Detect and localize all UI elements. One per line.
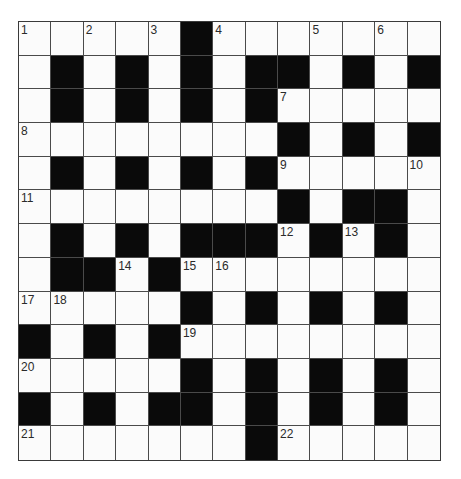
grid-cell[interactable] (408, 224, 440, 258)
grid-cell[interactable] (213, 393, 245, 427)
grid-cell[interactable] (213, 190, 245, 224)
grid-cell[interactable] (343, 393, 375, 427)
grid-cell[interactable] (149, 123, 181, 157)
grid-cell[interactable]: 11 (19, 190, 51, 224)
grid-cell[interactable] (84, 123, 116, 157)
grid-cell[interactable] (375, 89, 407, 123)
grid-cell[interactable] (310, 426, 342, 460)
grid-cell[interactable] (408, 292, 440, 326)
grid-cell[interactable]: 17 (19, 292, 51, 326)
grid-cell[interactable] (310, 258, 342, 292)
grid-cell[interactable] (408, 359, 440, 393)
grid-cell[interactable]: 8 (19, 123, 51, 157)
grid-cell[interactable] (149, 426, 181, 460)
grid-cell[interactable] (149, 224, 181, 258)
grid-cell[interactable]: 3 (149, 22, 181, 56)
grid-cell[interactable] (213, 56, 245, 90)
grid-cell[interactable] (84, 359, 116, 393)
grid-cell[interactable] (213, 89, 245, 123)
grid-cell[interactable] (84, 426, 116, 460)
grid-cell[interactable] (343, 325, 375, 359)
grid-cell[interactable]: 21 (19, 426, 51, 460)
grid-cell[interactable] (278, 393, 310, 427)
grid-cell[interactable] (408, 89, 440, 123)
grid-cell[interactable] (51, 426, 83, 460)
grid-cell[interactable] (19, 258, 51, 292)
grid-cell[interactable] (116, 325, 148, 359)
grid-cell[interactable] (84, 56, 116, 90)
grid-cell[interactable] (310, 325, 342, 359)
grid-cell[interactable] (84, 190, 116, 224)
grid-cell[interactable] (246, 22, 278, 56)
grid-cell[interactable] (213, 292, 245, 326)
grid-cell[interactable]: 12 (278, 224, 310, 258)
grid-cell[interactable] (310, 123, 342, 157)
grid-cell[interactable]: 18 (51, 292, 83, 326)
grid-cell[interactable] (246, 190, 278, 224)
grid-cell[interactable]: 22 (278, 426, 310, 460)
grid-cell[interactable]: 19 (181, 325, 213, 359)
grid-cell[interactable] (408, 393, 440, 427)
grid-cell[interactable] (51, 325, 83, 359)
grid-cell[interactable] (149, 157, 181, 191)
grid-cell[interactable] (116, 292, 148, 326)
grid-cell[interactable]: 13 (343, 224, 375, 258)
grid-cell[interactable] (278, 258, 310, 292)
grid-cell[interactable] (116, 426, 148, 460)
grid-cell[interactable] (19, 224, 51, 258)
grid-cell[interactable] (310, 190, 342, 224)
grid-cell[interactable] (149, 89, 181, 123)
grid-cell[interactable]: 20 (19, 359, 51, 393)
grid-cell[interactable] (116, 190, 148, 224)
grid-cell[interactable] (19, 56, 51, 90)
grid-cell[interactable] (19, 89, 51, 123)
grid-cell[interactable] (343, 89, 375, 123)
grid-cell[interactable] (149, 292, 181, 326)
grid-cell[interactable]: 15 (181, 258, 213, 292)
grid-cell[interactable] (116, 22, 148, 56)
grid-cell[interactable]: 10 (408, 157, 440, 191)
grid-cell[interactable] (375, 56, 407, 90)
grid-cell[interactable] (246, 325, 278, 359)
grid-cell[interactable] (278, 292, 310, 326)
grid-cell[interactable] (408, 325, 440, 359)
grid-cell[interactable] (149, 359, 181, 393)
grid-cell[interactable] (116, 123, 148, 157)
grid-cell[interactable] (343, 157, 375, 191)
grid-cell[interactable] (51, 22, 83, 56)
grid-cell[interactable] (310, 56, 342, 90)
grid-cell[interactable]: 14 (116, 258, 148, 292)
grid-cell[interactable] (310, 157, 342, 191)
grid-cell[interactable] (213, 325, 245, 359)
grid-cell[interactable] (213, 426, 245, 460)
grid-cell[interactable]: 5 (310, 22, 342, 56)
grid-cell[interactable] (51, 123, 83, 157)
grid-cell[interactable] (375, 325, 407, 359)
grid-cell[interactable] (181, 190, 213, 224)
grid-cell[interactable]: 16 (213, 258, 245, 292)
grid-cell[interactable] (278, 325, 310, 359)
grid-cell[interactable] (246, 123, 278, 157)
grid-cell[interactable] (51, 190, 83, 224)
grid-cell[interactable] (213, 123, 245, 157)
grid-cell[interactable]: 1 (19, 22, 51, 56)
grid-cell[interactable]: 9 (278, 157, 310, 191)
grid-cell[interactable] (278, 359, 310, 393)
grid-cell[interactable] (375, 258, 407, 292)
grid-cell[interactable] (343, 359, 375, 393)
grid-cell[interactable] (149, 56, 181, 90)
grid-cell[interactable] (343, 22, 375, 56)
grid-cell[interactable] (51, 393, 83, 427)
grid-cell[interactable] (19, 157, 51, 191)
grid-cell[interactable] (343, 258, 375, 292)
grid-cell[interactable] (116, 393, 148, 427)
grid-cell[interactable] (51, 359, 83, 393)
grid-cell[interactable] (375, 426, 407, 460)
grid-cell[interactable]: 6 (375, 22, 407, 56)
grid-cell[interactable] (116, 359, 148, 393)
grid-cell[interactable] (246, 258, 278, 292)
grid-cell[interactable] (84, 292, 116, 326)
grid-cell[interactable]: 4 (213, 22, 245, 56)
grid-cell[interactable] (375, 123, 407, 157)
grid-cell[interactable] (408, 190, 440, 224)
